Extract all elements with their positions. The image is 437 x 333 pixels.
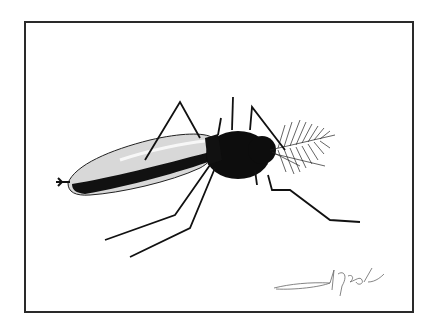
antenna-plume [270, 120, 335, 174]
artist-signature [274, 268, 384, 296]
thorax [205, 131, 276, 179]
abdomen [56, 134, 216, 195]
mosquito-illustration [0, 0, 437, 333]
